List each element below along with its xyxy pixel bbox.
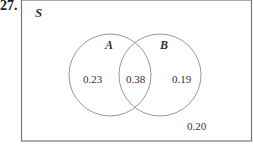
set-b-only-value: 0.19	[172, 73, 192, 85]
set-a-only-value: 0.23	[83, 73, 103, 85]
outside-value: 0.20	[187, 120, 207, 132]
universal-label: S	[35, 5, 42, 20]
set-a-label: A	[104, 38, 113, 52]
set-b-label: B	[159, 38, 168, 52]
universal-set-rect	[22, 0, 252, 141]
venn-diagram: S A B 0.23 0.38 0.19 0.20	[0, 0, 254, 144]
intersection-value: 0.38	[126, 73, 146, 85]
